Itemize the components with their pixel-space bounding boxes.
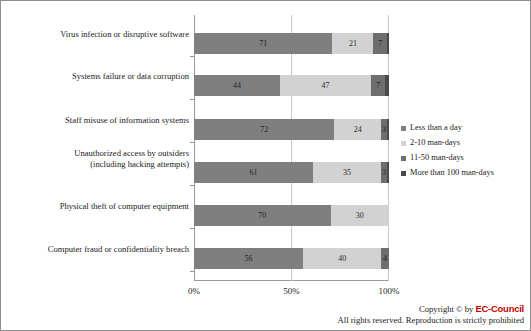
bar-segment: 44: [194, 75, 280, 96]
bar-segment-value: 47: [322, 82, 330, 90]
category-label-line1: Physical theft of computer equipment: [60, 201, 189, 211]
brand-name: EC-Council: [475, 303, 524, 314]
bar-segment: [387, 33, 389, 54]
category-label-line1: Systems failure or data corruption: [72, 71, 189, 81]
category-label: Physical theft of computer equipment: [6, 201, 189, 212]
bar-segment: 21: [332, 33, 373, 54]
bar-segment-value: 21: [349, 40, 357, 48]
bar-segment: 56: [194, 248, 303, 269]
legend-swatch-icon: [401, 171, 406, 176]
gridline-50: [291, 15, 292, 281]
x-tick-label: 0%: [188, 286, 200, 296]
category-label-line1: Virus infection or disruptive software: [60, 29, 189, 39]
bar-segment-value: 7: [376, 82, 380, 90]
bar-segment: 47: [280, 75, 372, 96]
bar-segment: [387, 162, 389, 183]
bar-segment: 61: [194, 162, 313, 183]
category-label-line2: (including hacking attempts): [6, 159, 189, 170]
legend-item[interactable]: 2-10 man-days: [401, 136, 531, 150]
bar-segment-value: 44: [233, 82, 241, 90]
bar-segment: 4: [381, 248, 389, 269]
bar-segment-value: 71: [259, 40, 267, 48]
category-label-line1: Computer fraud or confidentiality breach: [48, 244, 189, 254]
bar-segment: 72: [194, 119, 334, 140]
legend-label: Less than a day: [410, 124, 462, 132]
bar-segment-value: 40: [338, 255, 346, 263]
bar-segment: 30: [331, 205, 390, 226]
footer: Copyright © by EC-Council All rights res…: [338, 303, 524, 326]
chart-legend: Less than a day2-10 man-days11-50 man-da…: [401, 121, 531, 181]
category-label: Unauthorized access by outsiders(includi…: [6, 148, 189, 169]
bar-segment-value: 7: [378, 40, 382, 48]
bar-segment-value: 4: [383, 255, 387, 263]
bar-row: 7030: [194, 205, 389, 226]
legend-item[interactable]: More than 100 man-days: [401, 166, 531, 180]
bar-segment: [387, 119, 389, 140]
axis-tick: [190, 142, 194, 143]
bar-segment: 40: [303, 248, 381, 269]
axis-tick: [190, 271, 194, 272]
copyright-prefix: Copyright © by: [419, 304, 475, 314]
x-tick-label: 50%: [283, 286, 300, 296]
bar-row: 56404: [194, 248, 389, 269]
bar-segment: [385, 75, 389, 96]
legend-item[interactable]: 11-50 man-days: [401, 151, 531, 165]
y-axis-line: [194, 15, 195, 281]
copyright-line: Copyright © by EC-Council: [338, 303, 524, 315]
legend-label: 2-10 man-days: [410, 139, 460, 147]
bar-row: 61353: [194, 162, 389, 183]
category-label: Staff misuse of information systems: [6, 115, 189, 126]
bar-row: 44477: [194, 75, 389, 96]
legend-swatch-icon: [401, 126, 406, 131]
legend-label: 11-50 man-days: [410, 154, 464, 162]
bar-row: 72243: [194, 119, 389, 140]
category-label: Systems failure or data corruption: [6, 71, 189, 82]
category-label: Virus infection or disruptive software: [6, 29, 189, 40]
axis-tick: [190, 185, 194, 186]
x-tick-label: 100%: [379, 286, 400, 296]
rights-line: All rights reserved. Reproduction is str…: [338, 315, 524, 326]
category-label: Computer fraud or confidentiality breach: [6, 244, 189, 255]
category-label-line1: Unauthorized access by outsiders: [74, 148, 189, 158]
bar-segment-value: 35: [343, 169, 351, 177]
axis-tick: [190, 228, 194, 229]
category-label-line1: Staff misuse of information systems: [65, 115, 189, 125]
chart-plot-area: 71217444777224361353703056404: [194, 15, 389, 281]
bar-segment: 24: [334, 119, 381, 140]
bar-segment-value: 30: [356, 212, 364, 220]
legend-item[interactable]: Less than a day: [401, 121, 531, 135]
bar-segment-value: 70: [258, 212, 266, 220]
bar-segment: 70: [194, 205, 331, 226]
bar-segment: 7: [373, 33, 387, 54]
axis-tick: [190, 56, 194, 57]
bar-segment-value: 61: [249, 169, 257, 177]
legend-swatch-icon: [401, 141, 406, 146]
bar-segment-value: 3: [382, 126, 386, 134]
legend-label: More than 100 man-days: [410, 169, 494, 177]
legend-swatch-icon: [401, 156, 406, 161]
bar-segment: 35: [313, 162, 381, 183]
slide-frame: Virus infection or disruptive softwareSy…: [0, 0, 531, 331]
gridline-100: [388, 15, 389, 281]
bar-segment-value: 72: [260, 126, 268, 134]
bar-segment-value: 3: [382, 169, 386, 177]
bar-row: 71217: [194, 33, 389, 54]
bar-segment: 7: [371, 75, 385, 96]
bar-segment-value: 24: [354, 126, 362, 134]
bar-segment: 71: [194, 33, 332, 54]
bar-segment-value: 56: [245, 255, 253, 263]
axis-tick: [190, 99, 194, 100]
